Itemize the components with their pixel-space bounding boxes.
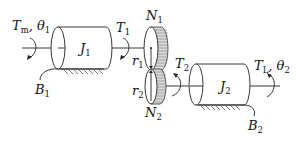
gear-n1 bbox=[144, 27, 168, 70]
torque-t2-arrow-icon bbox=[172, 73, 181, 96]
motor-torque-label: Tm, θ1 bbox=[12, 18, 50, 35]
gear-n2 bbox=[145, 69, 166, 104]
torque-t1-arrow-icon bbox=[120, 38, 129, 60]
gear-n2-label: N2 bbox=[144, 105, 162, 122]
torque-t2-label: T2 bbox=[175, 56, 189, 73]
load-torque-arrow-icon bbox=[267, 73, 274, 97]
load-torque-label: TL, θ2 bbox=[254, 58, 290, 75]
torque-t1-label: T1 bbox=[116, 20, 130, 37]
gear-train-diagram: Tm, θ1 J1 B1 T1 bbox=[0, 0, 296, 141]
damper-b1-label: B1 bbox=[34, 82, 50, 99]
gear-n1-label: N1 bbox=[145, 8, 163, 25]
motor-torque-arrow-icon bbox=[27, 38, 36, 60]
radius-r2-label: r2 bbox=[132, 83, 144, 100]
damper-b2-label: B2 bbox=[247, 118, 263, 135]
damper-b1-ground bbox=[40, 69, 104, 80]
damper-b2-ground bbox=[198, 105, 255, 116]
radius-r1-label: r1 bbox=[132, 53, 144, 70]
